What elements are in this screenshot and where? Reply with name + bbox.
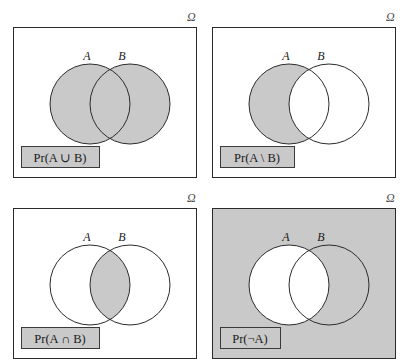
formula-label: Pr(A ∪ B): [34, 151, 87, 165]
universe-symbol-top-right: Ω: [386, 11, 395, 23]
panel-pr-a-minus-b: A B Pr(A \ B): [212, 27, 396, 178]
set-b-label: B: [317, 49, 325, 63]
universe-symbol-bottom-right: Ω: [386, 192, 395, 204]
venn-diagram-grid: Ω A B Pr(A ∪ B) Ω: [0, 0, 411, 363]
formula-label: Pr(A \ B): [234, 151, 280, 165]
set-a-label: A: [82, 230, 91, 244]
venn-svg-complement: A B Pr(¬A): [212, 208, 396, 359]
panel-pr-a-intersect-b: A B Pr(A ∩ B): [13, 208, 197, 359]
set-b-label: B: [118, 230, 126, 244]
set-b-label: B: [118, 49, 126, 63]
set-b-label: B: [317, 230, 325, 244]
venn-svg-union: A B Pr(A ∪ B): [13, 27, 197, 178]
set-a-label: A: [281, 230, 290, 244]
universe-symbol-top-left: Ω: [187, 11, 196, 23]
set-a-label: A: [281, 49, 290, 63]
set-a-label: A: [82, 49, 91, 63]
formula-label: Pr(¬A): [232, 332, 268, 346]
venn-svg-intersection: A B Pr(A ∩ B): [13, 208, 197, 359]
formula-label: Pr(A ∩ B): [34, 332, 85, 346]
panel-pr-not-a: A B Pr(¬A): [212, 208, 396, 359]
panel-pr-a-union-b: A B Pr(A ∪ B): [13, 27, 197, 178]
universe-symbol-bottom-left: Ω: [187, 192, 196, 204]
venn-svg-difference: A B Pr(A \ B): [212, 27, 396, 178]
